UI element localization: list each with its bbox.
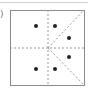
dot bbox=[53, 67, 57, 71]
upper-diagonal-dashed-line bbox=[48, 10, 84, 48]
dot bbox=[34, 67, 38, 71]
dot-diagram bbox=[0, 0, 88, 88]
lower-diagonal-dashed-line bbox=[48, 48, 84, 85]
dot bbox=[53, 24, 57, 28]
dot bbox=[67, 36, 71, 40]
dot bbox=[34, 24, 38, 28]
dot bbox=[67, 55, 71, 59]
